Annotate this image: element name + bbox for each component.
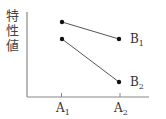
x-tick-label-a1: A1 (56, 101, 70, 117)
series-label-base: B (130, 75, 139, 89)
data-point (60, 37, 64, 41)
chart-plot (0, 0, 166, 119)
series-b2 (60, 37, 121, 84)
series-label-b2: B2 (130, 75, 144, 91)
data-point (60, 20, 64, 24)
series-label-sub: 2 (139, 82, 144, 91)
data-point (117, 80, 121, 84)
tick-label-sub: 2 (123, 108, 128, 117)
x-tick-label-a2: A2 (114, 101, 128, 117)
data-point (117, 37, 121, 41)
tick-label-sub: 1 (65, 108, 70, 117)
series-b1 (60, 20, 121, 41)
tick-label-base: A (56, 101, 65, 115)
series-label-base: B (130, 32, 139, 46)
series-label-sub: 1 (139, 39, 144, 48)
tick-label-base: A (114, 101, 123, 115)
series-label-b1: B1 (130, 32, 144, 48)
